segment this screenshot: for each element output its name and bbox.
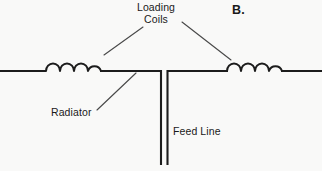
label-loading-coils: Loading Coils bbox=[118, 2, 194, 25]
loading-coils-line-2: Coils bbox=[118, 14, 194, 26]
label-radiator: Radiator bbox=[51, 107, 92, 119]
radiator-leader bbox=[97, 73, 136, 110]
diagram-canvas bbox=[0, 0, 322, 171]
label-feed-line: Feed Line bbox=[173, 126, 221, 138]
right-loading-coil bbox=[227, 63, 282, 71]
left-loading-coil bbox=[46, 63, 101, 71]
loading-coils-line-1: Loading bbox=[118, 2, 194, 14]
loading-coils-left-leader bbox=[104, 27, 143, 55]
loading-coils-right-leader bbox=[182, 22, 231, 60]
figure-section-label: B. bbox=[232, 5, 245, 17]
antenna-diagram: Loading Coils B. Radiator Feed Line bbox=[0, 0, 322, 171]
